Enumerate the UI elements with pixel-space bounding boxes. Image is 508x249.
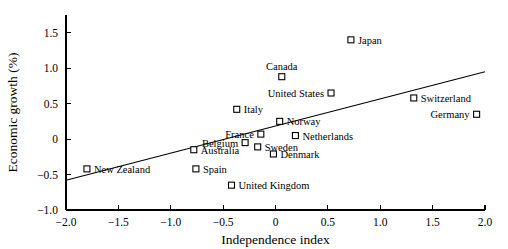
point-marker	[84, 166, 90, 172]
x-tick-label: 0	[273, 216, 279, 228]
point-marker	[229, 182, 235, 188]
data-point: Canada	[266, 61, 298, 80]
data-point: Spain	[193, 164, 228, 175]
x-tick-label: −1.0	[160, 216, 181, 228]
point-marker	[474, 111, 480, 117]
point-marker	[279, 74, 285, 80]
y-tick-label: −1.0	[37, 204, 58, 216]
point-marker	[242, 140, 248, 146]
x-tick-label: −2.0	[56, 216, 77, 228]
x-axis-title: Independence index	[221, 232, 330, 247]
point-label: Denmark	[280, 149, 320, 160]
data-point: United Kingdom	[229, 180, 310, 191]
scatter-plot-figure: 1.51.00.50−0.5−1.0 −2.0−1.5−1.0−0.500.51…	[0, 0, 508, 249]
y-tick-label: 0.5	[44, 98, 59, 110]
point-label: Japan	[358, 35, 383, 46]
x-tick-label: 1.0	[373, 216, 388, 228]
point-label: New Zealand	[94, 164, 151, 175]
point-label: Canada	[266, 61, 298, 72]
data-points: JapanCanadaUnited StatesSwitzerlandItaly…	[84, 35, 480, 191]
point-label: Italy	[244, 104, 264, 115]
plot-canvas: 1.51.00.50−0.5−1.0 −2.0−1.5−1.0−0.500.51…	[0, 0, 508, 249]
y-tick-label: 1.5	[44, 27, 59, 39]
point-label: Australia	[201, 145, 240, 156]
point-marker	[193, 166, 199, 172]
y-tick-label: 0	[52, 133, 58, 145]
point-marker	[348, 37, 354, 43]
point-marker	[191, 147, 197, 153]
data-point: Italy	[234, 104, 264, 115]
x-tick-label: 2.0	[478, 216, 493, 228]
point-label: Spain	[203, 164, 228, 175]
y-axis-title: Economic growth (%)	[5, 53, 20, 173]
data-point: New Zealand	[84, 164, 151, 175]
point-label: Switzerland	[421, 93, 472, 104]
x-tick-label: 0.5	[321, 216, 336, 228]
point-marker	[255, 144, 261, 150]
point-marker	[270, 151, 276, 157]
point-label: United Kingdom	[239, 180, 310, 191]
data-point: Norway	[277, 116, 322, 127]
x-axis: −2.0−1.5−1.0−0.500.51.01.52.0	[56, 205, 493, 228]
x-tick-label: −0.5	[213, 216, 234, 228]
data-point: Netherlands	[292, 131, 353, 142]
y-tick-label: −0.5	[37, 169, 58, 181]
point-label: Netherlands	[302, 131, 353, 142]
point-marker	[258, 131, 264, 137]
point-label: Norway	[287, 116, 322, 127]
y-axis: 1.51.00.50−0.5−1.0	[37, 15, 71, 216]
data-point: United States	[268, 88, 334, 99]
data-point: Japan	[348, 35, 383, 46]
y-tick-label: 1.0	[44, 62, 59, 74]
point-marker	[277, 118, 283, 124]
point-marker	[234, 106, 240, 112]
x-tick-label: 1.5	[425, 216, 440, 228]
point-marker	[411, 95, 417, 101]
point-marker	[328, 90, 334, 96]
x-tick-label: −1.5	[108, 216, 129, 228]
point-label: Germany	[431, 109, 471, 120]
data-point: Germany	[431, 109, 480, 120]
data-point: Switzerland	[411, 93, 472, 104]
point-label: United States	[268, 88, 324, 99]
point-marker	[292, 133, 298, 139]
